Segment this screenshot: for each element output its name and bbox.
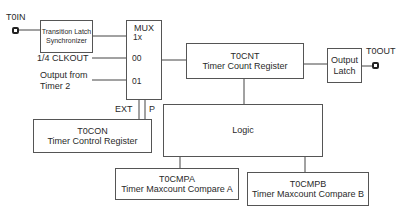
t0cmpa-block: T0CMPA Timer Maxcount Compare A (115, 168, 239, 200)
t0cmpb-block: T0CMPB Timer Maxcount Compare B (247, 172, 369, 206)
t0con-name: T0CON (77, 126, 108, 136)
transition-latch-block: Transition Latch Synchronizer (40, 20, 93, 53)
logic-name: Logic (232, 125, 254, 135)
output-latch-line2: Latch (333, 66, 355, 76)
timer2-label-line2: Timer 2 (40, 81, 70, 91)
t0cnt-desc: Timer Count Register (202, 61, 287, 71)
mux-input-1x: 1x (133, 33, 142, 43)
t0cnt-name: T0CNT (231, 51, 260, 61)
clkout-label: 1/4 CLKOUT (37, 53, 89, 63)
mux-input-01: 01 (132, 77, 141, 87)
output-latch-block: Output Latch (327, 48, 362, 83)
t0in-label: T0IN (6, 12, 26, 22)
t0out-pin-icon (372, 62, 379, 69)
t0cnt-block: T0CNT Timer Count Register (186, 43, 304, 79)
t0con-desc: Timer Control Register (47, 136, 137, 146)
mux-block: MUX 1x 00 01 (126, 20, 162, 100)
t0cmpb-desc: Timer Maxcount Compare B (252, 189, 364, 199)
mux-input-00: 00 (132, 54, 141, 64)
logic-block: Logic (163, 104, 323, 157)
transition-latch-line1: Transition Latch (42, 28, 92, 36)
t0cmpa-desc: Timer Maxcount Compare A (121, 184, 233, 194)
transition-latch-line2: Synchronizer (46, 37, 87, 45)
timer2-label-line1: Output from (40, 70, 88, 80)
output-latch-line1: Output (331, 55, 358, 65)
ext-label: EXT (115, 104, 133, 114)
t0in-pin-icon (12, 27, 19, 34)
p-label: P (149, 104, 155, 114)
t0cmpa-name: T0CMPA (159, 174, 195, 184)
t0out-label: T0OUT (366, 46, 396, 56)
t0con-block: T0CON Timer Control Register (33, 119, 152, 153)
t0cmpb-name: T0CMPB (290, 179, 327, 189)
